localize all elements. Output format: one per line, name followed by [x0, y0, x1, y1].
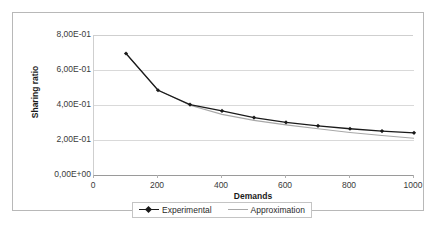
- legend-label: Approximation: [251, 205, 305, 215]
- x-tick-mark: [349, 175, 350, 178]
- y-tick-label: 8,00E-01: [21, 30, 91, 39]
- legend-item-approximation[interactable]: Approximation: [228, 205, 305, 215]
- x-tick-mark: [285, 175, 286, 178]
- line-marker-icon: [139, 206, 159, 214]
- x-tick-label: 0: [73, 180, 113, 190]
- x-axis-line: [93, 175, 413, 176]
- data-point-marker: [316, 124, 320, 128]
- x-tick-label: 800: [329, 180, 369, 190]
- chart-legend: Experimental Approximation: [132, 202, 312, 218]
- x-tick-mark: [413, 175, 414, 178]
- y-tick-label: 0,00E+00: [21, 170, 91, 179]
- data-point-marker: [220, 109, 224, 113]
- x-axis-title: Demands: [93, 191, 413, 201]
- x-tick-mark: [157, 175, 158, 178]
- data-point-marker: [412, 131, 416, 135]
- series-plot: [94, 36, 414, 176]
- y-axis-title: Sharing ratio: [30, 42, 40, 142]
- data-point-marker: [252, 115, 256, 119]
- data-point-marker: [284, 120, 288, 124]
- x-tick-mark: [93, 175, 94, 178]
- x-tick-mark: [221, 175, 222, 178]
- data-point-marker: [348, 127, 352, 131]
- data-point-marker: [380, 129, 384, 133]
- x-tick-label: 1000: [393, 180, 433, 190]
- plot-area: [93, 35, 413, 175]
- x-tick-label: 400: [201, 180, 241, 190]
- legend-label: Experimental: [162, 205, 212, 215]
- chart-screenshot: 8,00E-01 6,00E-01 4,00E-01 2,00E-01 0,00…: [0, 0, 437, 228]
- experimental-series-line: [126, 54, 414, 133]
- x-tick-label: 600: [265, 180, 305, 190]
- legend-item-experimental[interactable]: Experimental: [139, 205, 212, 215]
- x-tick-label: 200: [137, 180, 177, 190]
- chart-frame: 8,00E-01 6,00E-01 4,00E-01 2,00E-01 0,00…: [12, 12, 424, 211]
- line-icon: [228, 206, 248, 214]
